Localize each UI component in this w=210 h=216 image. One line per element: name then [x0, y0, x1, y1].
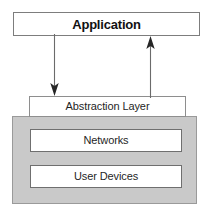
- application-box: Application: [13, 12, 200, 36]
- layered-architecture-diagram: Application Abstraction Layer Networks U…: [0, 0, 210, 216]
- arrow-down-application-to-abstraction-icon: [44, 34, 66, 98]
- arrow-up-abstraction-to-application-icon: [140, 34, 162, 98]
- networks-box: Networks: [30, 129, 182, 152]
- networks-label: Networks: [83, 135, 128, 146]
- user-devices-box: User Devices: [30, 165, 182, 188]
- abstraction-layer-label: Abstraction Layer: [66, 101, 150, 112]
- user-devices-label: User Devices: [74, 171, 138, 182]
- application-label: Application: [72, 18, 141, 31]
- abstraction-layer-box: Abstraction Layer: [29, 96, 186, 117]
